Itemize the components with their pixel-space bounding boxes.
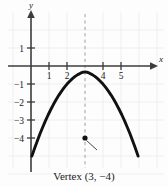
parabola-figure: 1 2 4 5 1 −1 −2 −3 −4 x y Vertex (3, −4) (0, 0, 168, 187)
x-tick-label-4: 4 (101, 71, 106, 81)
plot-background (0, 0, 168, 187)
y-axis-label: y (28, 0, 33, 10)
y-tick-label-minus-2: −2 (14, 98, 24, 108)
graph-canvas: 1 2 4 5 1 −1 −2 −3 −4 x y Vertex (3, −4) (0, 0, 168, 187)
y-tick-label-1: 1 (19, 44, 24, 54)
x-tick-label-2: 2 (65, 71, 70, 81)
y-tick-label-minus-3: −3 (14, 116, 24, 126)
y-tick-label-minus-4: −4 (14, 134, 24, 144)
x-tick-label-5: 5 (119, 71, 124, 81)
vertex-point-marker (82, 135, 87, 140)
vertex-caption: Vertex (3, −4) (53, 170, 115, 183)
y-tick-label-minus-1: −1 (14, 80, 24, 90)
x-axis-label: x (158, 54, 163, 64)
x-tick-label-1: 1 (47, 71, 52, 81)
